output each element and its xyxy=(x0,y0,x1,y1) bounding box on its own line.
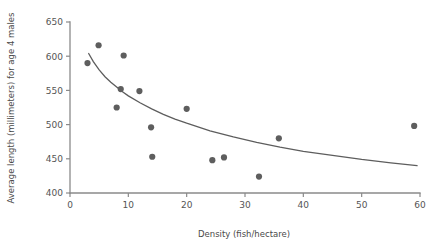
x-tick-label: 30 xyxy=(239,200,251,210)
trend-line xyxy=(89,53,417,165)
data-point xyxy=(84,60,90,66)
data-point xyxy=(95,42,101,48)
data-point xyxy=(114,104,120,110)
y-axis-tick-labels: 400450500550600650 xyxy=(46,17,63,198)
x-tick-label: 10 xyxy=(123,200,135,210)
data-point xyxy=(136,88,142,94)
data-point xyxy=(276,135,282,141)
data-point xyxy=(118,86,124,92)
y-axis-title: Average length (millimeters) for age 4 m… xyxy=(6,12,16,204)
y-tick-label: 500 xyxy=(46,120,63,130)
scatter-chart: 400450500550600650 0102030405060 Density… xyxy=(0,0,438,244)
data-point xyxy=(184,106,190,112)
x-tick-label: 40 xyxy=(298,200,310,210)
data-point xyxy=(411,123,417,129)
x-tick-label: 0 xyxy=(67,200,73,210)
y-tick-label: 400 xyxy=(46,188,63,198)
data-point xyxy=(221,154,227,160)
y-tick-label: 600 xyxy=(46,52,63,62)
x-axis-group: 0102030405060 xyxy=(67,193,426,210)
y-tick-label: 450 xyxy=(46,154,63,164)
x-tick-label: 60 xyxy=(414,200,426,210)
data-point xyxy=(121,52,127,58)
x-tick-label: 50 xyxy=(356,200,368,210)
y-tick-label: 550 xyxy=(46,86,63,96)
data-point xyxy=(209,157,215,163)
data-point xyxy=(256,173,262,179)
data-point xyxy=(149,154,155,160)
x-axis-title: Density (fish/hectare) xyxy=(198,229,290,239)
chart-canvas: 400450500550600650 0102030405060 Density… xyxy=(0,0,438,244)
data-point xyxy=(148,124,154,130)
y-tick-label: 650 xyxy=(46,17,63,27)
x-tick-label: 20 xyxy=(181,200,193,210)
x-axis-tick-labels: 0102030405060 xyxy=(67,200,426,210)
y-axis-group: 400450500550600650 xyxy=(46,17,70,198)
data-point-group xyxy=(84,42,417,180)
